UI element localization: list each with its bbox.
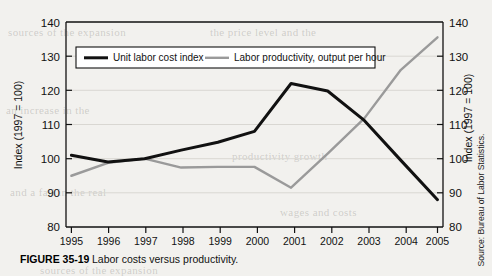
y-tick-label: 140 bbox=[41, 17, 60, 29]
y2-tick-label: 140 bbox=[449, 17, 468, 29]
y-tick-label: 130 bbox=[41, 51, 60, 63]
x-tick-label: 2000 bbox=[246, 235, 270, 247]
y-tick-label: 110 bbox=[42, 119, 60, 131]
x-tick-label: 2004 bbox=[395, 235, 419, 247]
x-tick-label: 1995 bbox=[60, 235, 84, 247]
y-tick-label: 100 bbox=[41, 153, 60, 165]
caption-label: FIGURE 35-19 bbox=[20, 253, 90, 265]
right-axis-ticks bbox=[437, 56, 443, 193]
chart-legend[interactable]: Unit labor cost index Labor productivity… bbox=[76, 47, 386, 68]
figure-caption: FIGURE 35-19 Labor costs versus producti… bbox=[20, 253, 238, 265]
left-axis-labels: 140 130 120 110 100 90 80 bbox=[41, 17, 60, 234]
legend-label-labor-productivity: Labor productivity, output per hour bbox=[234, 52, 386, 63]
series-line-unit-labor-cost bbox=[71, 84, 437, 200]
x-tick-label: 1999 bbox=[209, 235, 233, 247]
y-tick-label: 120 bbox=[41, 85, 60, 97]
x-axis-ticks bbox=[71, 227, 437, 233]
right-axis-title: Index (1997 = 100) bbox=[462, 74, 474, 162]
y-tick-label: 80 bbox=[47, 221, 60, 233]
x-tick-label: 2001 bbox=[283, 235, 307, 247]
x-tick-label: 2002 bbox=[320, 235, 344, 247]
x-axis-labels: 1995 1996 1997 1998 1999 2000 2001 2002 … bbox=[60, 235, 450, 247]
source-note: Source: Bureau of Labor Statistics. bbox=[476, 134, 486, 267]
x-tick-label: 2005 bbox=[426, 235, 450, 247]
legend-label-unit-labor-cost: Unit labor cost index bbox=[113, 52, 204, 63]
caption-text: Labor costs versus productivity. bbox=[92, 253, 238, 265]
x-tick-label: 2003 bbox=[357, 235, 381, 247]
y2-tick-label: 80 bbox=[449, 221, 462, 233]
gridlines bbox=[66, 56, 443, 193]
left-axis-title: Index (1997 = 100) bbox=[12, 81, 24, 169]
x-tick-label: 1996 bbox=[97, 235, 121, 247]
left-axis-ticks bbox=[66, 56, 72, 193]
y2-tick-label: 90 bbox=[449, 187, 462, 199]
y-tick-label: 90 bbox=[47, 187, 60, 199]
y2-tick-label: 130 bbox=[449, 51, 468, 63]
x-tick-label: 1997 bbox=[134, 235, 158, 247]
x-tick-label: 1998 bbox=[171, 235, 195, 247]
